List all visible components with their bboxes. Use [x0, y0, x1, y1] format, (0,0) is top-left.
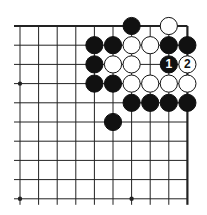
black-stone-disc — [104, 113, 121, 130]
white-stone[interactable] — [104, 56, 121, 73]
black-stone[interactable] — [142, 94, 159, 111]
black-stone-disc — [104, 75, 121, 92]
black-stone[interactable] — [179, 37, 196, 54]
white-stone[interactable] — [123, 75, 140, 92]
board-grid — [14, 26, 187, 205]
white-stone-disc — [142, 75, 159, 92]
white-stone-disc — [160, 75, 177, 92]
black-stone[interactable] — [179, 94, 196, 111]
black-stone[interactable] — [160, 94, 177, 111]
move-number-label: 2 — [184, 57, 191, 71]
stones-layer: 12 — [86, 17, 196, 130]
black-stone[interactable] — [86, 56, 103, 73]
black-stone-disc — [104, 37, 121, 54]
black-stone[interactable] — [104, 75, 121, 92]
black-stone[interactable] — [104, 37, 121, 54]
black-stone-disc — [160, 37, 177, 54]
black-stone-disc — [179, 37, 196, 54]
black-stone[interactable] — [123, 94, 140, 111]
white-stone[interactable] — [142, 75, 159, 92]
white-stone-disc — [142, 37, 159, 54]
black-stone[interactable] — [160, 37, 177, 54]
black-stone[interactable] — [123, 17, 140, 34]
move-number-label: 1 — [165, 57, 172, 71]
black-stone-disc — [142, 94, 159, 111]
white-stone[interactable] — [160, 17, 177, 34]
white-stone-disc — [123, 75, 140, 92]
go-board[interactable]: 12 — [0, 0, 207, 215]
white-stone-disc — [104, 56, 121, 73]
black-stone[interactable] — [104, 113, 121, 130]
black-stone-disc — [160, 94, 177, 111]
white-stone-disc — [160, 17, 177, 34]
black-stone-disc — [86, 56, 103, 73]
white-stone[interactable] — [123, 37, 140, 54]
black-stone[interactable] — [86, 75, 103, 92]
star-point — [18, 197, 22, 201]
star-point — [129, 197, 133, 201]
black-stone[interactable] — [86, 37, 103, 54]
white-stone[interactable]: 2 — [179, 56, 196, 73]
black-stone-disc — [86, 75, 103, 92]
white-stone[interactable] — [142, 37, 159, 54]
white-stone[interactable] — [179, 75, 196, 92]
white-stone-disc — [179, 75, 196, 92]
black-stone-disc — [86, 37, 103, 54]
white-stone[interactable] — [123, 56, 140, 73]
black-stone-disc — [123, 94, 140, 111]
white-stone[interactable] — [160, 75, 177, 92]
white-stone-disc — [123, 37, 140, 54]
black-stone[interactable]: 1 — [160, 56, 177, 73]
star-point — [18, 81, 22, 85]
white-stone-disc — [123, 56, 140, 73]
black-stone-disc — [123, 17, 140, 34]
black-stone-disc — [179, 94, 196, 111]
